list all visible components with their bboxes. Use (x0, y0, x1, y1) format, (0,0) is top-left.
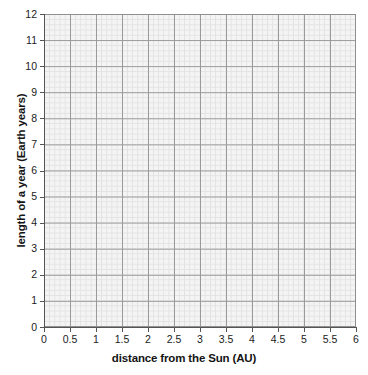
y-tick (40, 118, 44, 119)
y-tick (40, 327, 44, 328)
x-tick (330, 328, 331, 332)
y-tick (40, 249, 44, 250)
chart-figure: 00.511.522.533.544.555.56 01234567891011… (0, 0, 368, 375)
y-tick (40, 301, 44, 302)
y-tick-label: 6 (31, 165, 37, 176)
x-tick (356, 328, 357, 332)
y-tick (40, 144, 44, 145)
x-tick (226, 328, 227, 332)
y-axis-title: length of a year (Earth years) (2, 14, 16, 327)
plot-area (44, 14, 356, 327)
x-axis-title: distance from the Sun (AU) (0, 352, 368, 364)
y-tick (40, 14, 44, 15)
x-tick-label: 6 (336, 333, 368, 346)
x-tick (304, 328, 305, 332)
y-tick (40, 197, 44, 198)
x-tick (44, 328, 45, 332)
y-tick-label: 7 (31, 139, 37, 150)
y-tick (40, 92, 44, 93)
x-tick (122, 328, 123, 332)
x-tick (252, 328, 253, 332)
x-tick (96, 328, 97, 332)
y-axis-spine (44, 14, 45, 328)
y-tick-label: 4 (31, 217, 37, 228)
y-tick-label: 3 (31, 243, 37, 254)
y-tick (40, 275, 44, 276)
y-tick-label: 11 (26, 35, 37, 46)
x-tick (70, 328, 71, 332)
x-tick (200, 328, 201, 332)
y-tick-label: 1 (31, 295, 37, 306)
y-tick-label: 5 (31, 191, 37, 202)
y-tick (40, 66, 44, 67)
y-tick-label: 10 (25, 61, 37, 72)
y-tick-label: 9 (31, 87, 37, 98)
x-tick (148, 328, 149, 332)
y-axis-title-text: length of a year (Earth years) (15, 14, 27, 327)
x-tick (174, 328, 175, 332)
y-tick-label: 8 (31, 113, 37, 124)
y-tick (40, 223, 44, 224)
y-tick (40, 171, 44, 172)
y-tick-label: 0 (31, 322, 37, 333)
y-tick (40, 40, 44, 41)
y-tick-label: 2 (31, 269, 37, 280)
y-tick-label: 12 (25, 9, 37, 20)
x-tick (278, 328, 279, 332)
